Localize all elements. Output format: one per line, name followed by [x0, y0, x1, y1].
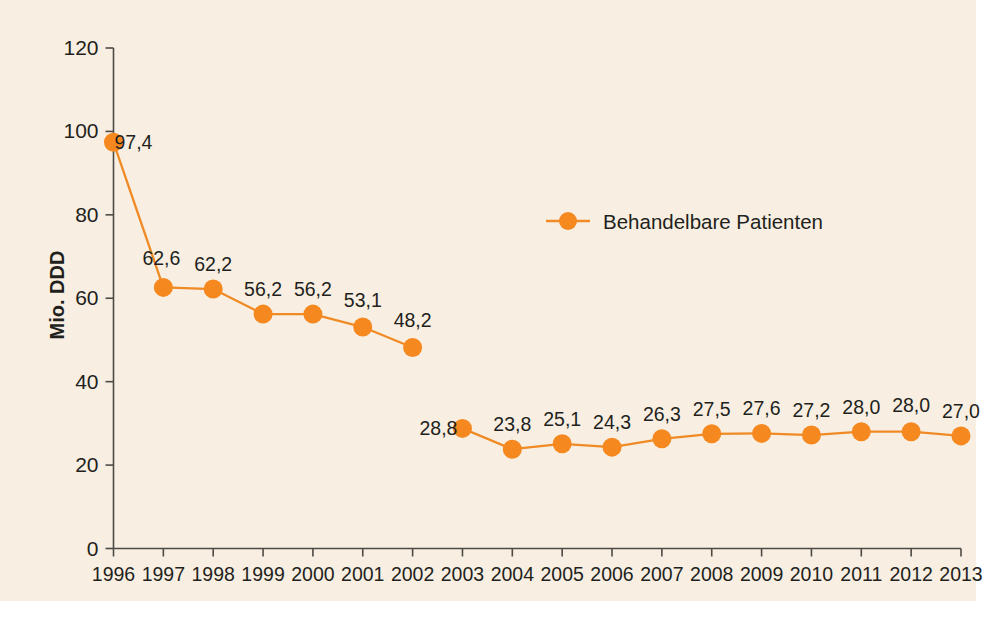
x-tick-label: 2005 — [540, 563, 584, 585]
y-tick-label: 100 — [63, 119, 98, 142]
y-axis-title-text: Mio. DDD — [46, 251, 68, 340]
x-tick-label: 2009 — [740, 563, 783, 585]
line-chart: Mio. DDD 020406080100120 199619971998199… — [0, 0, 993, 632]
y-axis-title: Mio. DDD — [46, 251, 68, 340]
data-point-label: 28,0 — [892, 394, 930, 416]
y-tick-label: 20 — [75, 453, 98, 476]
series-lines — [114, 142, 962, 449]
x-tick-label: 1998 — [192, 563, 235, 585]
data-point-marker — [652, 429, 671, 448]
data-point-marker — [952, 426, 971, 445]
data-point-marker — [204, 280, 223, 299]
data-point-label: 24,3 — [593, 411, 631, 433]
data-point-marker — [852, 422, 871, 441]
x-tick-label: 2000 — [291, 563, 335, 585]
data-point-label: 27,2 — [792, 399, 830, 421]
data-point-marker — [702, 424, 721, 443]
chart-legend: Behandelbare Patienten — [546, 210, 823, 233]
data-point-label: 97,4 — [115, 131, 153, 153]
data-point-marker — [902, 422, 921, 441]
data-point-marker — [503, 440, 522, 459]
data-point-label: 62,2 — [194, 253, 232, 275]
x-tick-label: 2003 — [441, 563, 484, 585]
x-tick-label: 2013 — [939, 563, 982, 585]
data-point-marker — [403, 338, 422, 357]
data-point-label: 25,1 — [543, 408, 581, 430]
x-tick-label: 1999 — [241, 563, 284, 585]
x-tick-label: 1996 — [92, 563, 135, 585]
data-point-marker — [752, 424, 771, 443]
y-axis-ticks: 020406080100120 — [63, 36, 113, 560]
data-point-labels: 97,462,662,256,256,253,148,228,823,825,1… — [115, 131, 981, 439]
x-tick-label: 2012 — [889, 563, 932, 585]
y-tick-label: 120 — [63, 36, 98, 59]
data-point-label: 27,5 — [693, 398, 731, 420]
data-point-label: 27,6 — [743, 397, 781, 419]
data-point-label: 28,0 — [842, 396, 880, 418]
axes — [114, 48, 962, 549]
y-tick-label: 0 — [87, 537, 99, 560]
x-tick-label: 2002 — [391, 563, 434, 585]
data-point-label: 53,1 — [344, 289, 382, 311]
data-point-marker — [353, 318, 372, 337]
legend-entry-label: Behandelbare Patienten — [603, 210, 823, 233]
y-tick-label: 40 — [75, 370, 98, 393]
data-point-marker — [154, 278, 173, 297]
data-point-label: 26,3 — [643, 403, 681, 425]
y-tick-label: 80 — [75, 203, 98, 226]
series-markers — [104, 133, 971, 459]
data-point-marker — [553, 434, 572, 453]
data-point-marker — [603, 438, 622, 457]
data-point-marker — [802, 426, 821, 445]
x-tick-label: 2004 — [491, 563, 535, 585]
legend-marker-icon — [559, 212, 577, 230]
data-point-label: 23,8 — [493, 413, 531, 435]
x-tick-label: 2007 — [640, 563, 683, 585]
data-point-marker — [254, 305, 273, 324]
y-tick-label: 60 — [75, 286, 98, 309]
data-point-label: 27,0 — [942, 400, 980, 422]
chart-figure: Mio. DDD 020406080100120 199619971998199… — [0, 0, 993, 632]
data-point-label: 56,2 — [244, 278, 282, 300]
x-tick-label: 2010 — [790, 563, 834, 585]
data-point-label: 56,2 — [294, 278, 332, 300]
data-point-label: 62,6 — [142, 247, 180, 269]
data-point-label: 28,8 — [419, 417, 457, 439]
x-tick-label: 2011 — [840, 563, 882, 585]
x-tick-label: 2001 — [341, 563, 384, 585]
x-tick-label: 1997 — [142, 563, 185, 585]
x-axis-ticks: 1996199719981999200020012002200320042005… — [92, 549, 983, 585]
data-point-label: 48,2 — [394, 309, 432, 331]
x-tick-label: 2006 — [590, 563, 633, 585]
data-point-marker — [303, 305, 322, 324]
x-tick-label: 2008 — [690, 563, 733, 585]
